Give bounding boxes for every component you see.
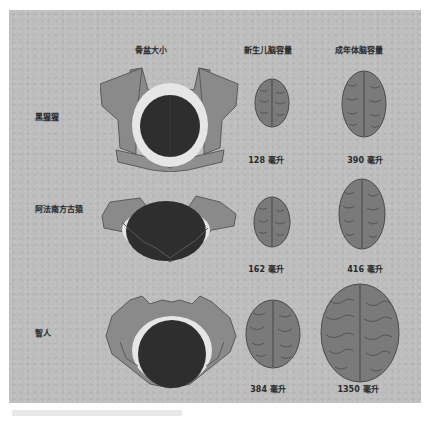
row-label-australopithecus: 阿法南方古猿	[35, 203, 83, 214]
brain-adult-australopithecus	[337, 178, 387, 250]
volume-adult-australopithecus: 416 毫升	[347, 263, 382, 274]
bleed-through-artifact	[12, 410, 182, 416]
volume-newborn-homo-sapiens: 384 毫升	[250, 383, 285, 394]
volume-newborn-australopithecus: 162 毫升	[248, 263, 283, 274]
header-newborn-brain: 新生儿脑容量	[244, 44, 292, 55]
volume-newborn-chimpanzee: 128 毫升	[248, 154, 283, 165]
volume-adult-homo-sapiens: 1350 毫升	[337, 383, 378, 394]
brain-newborn-australopithecus	[253, 196, 291, 248]
brain-adult-homo-sapiens	[320, 283, 400, 383]
pelvis-homo-sapiens-figure	[100, 292, 240, 392]
pelvis-chimpanzee-figure	[100, 62, 240, 172]
brain-adult-chimpanzee	[340, 70, 388, 138]
row-label-homo-sapiens: 智人	[35, 327, 51, 338]
brain-newborn-homo-sapiens	[245, 299, 301, 369]
header-pelvis-size: 骨盆大小	[135, 44, 167, 55]
volume-adult-chimpanzee: 390 毫升	[347, 154, 382, 165]
row-label-chimpanzee: 黑猩猩	[35, 111, 59, 122]
brain-newborn-chimpanzee	[254, 78, 290, 128]
header-adult-brain: 成年体脑容量	[335, 44, 383, 55]
pelvis-australopithecus-figure	[100, 186, 240, 266]
